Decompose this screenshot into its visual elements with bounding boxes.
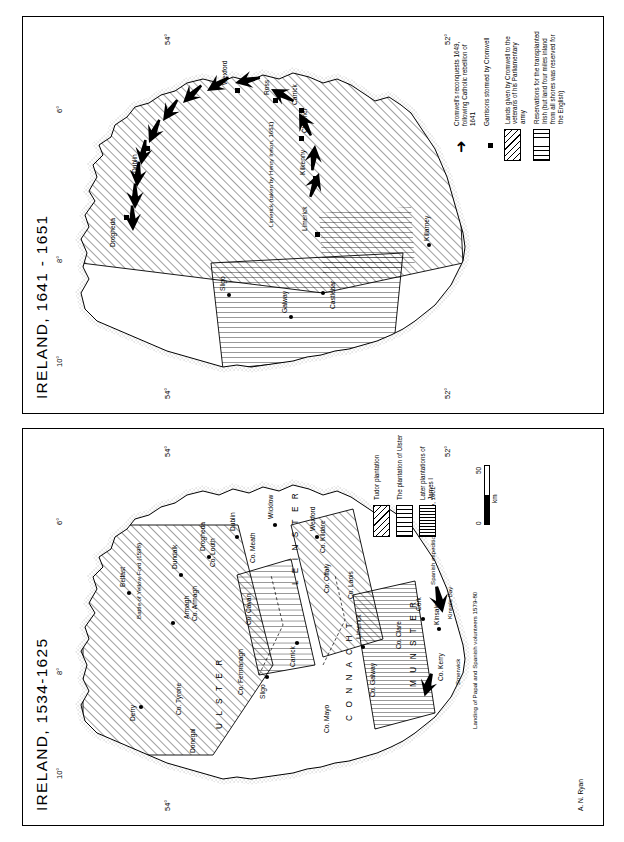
vertical-hatch-icon [396,505,413,537]
county-label-kerry: Co. Kerry [437,653,444,681]
place-label-cork: Cork [415,597,422,611]
legend-label-garrisons-stormed: Garrisons stormed by Cromwell [483,38,491,126]
place-label-limerick-r: Limerick [301,206,308,231]
legend-row-tudor-plantation: Tudor plantation [373,429,390,537]
place-label-armagh-town: Armagh [183,596,190,619]
scale-bar-left: 0 50 km [475,465,490,525]
place-label-castlebar-r: Castlebar [329,281,336,309]
annotation-battle-yellow-ford: Battle of Yellow Ford (1598) [135,555,142,619]
vertical-hatch-icon-right [533,129,550,161]
rotated-map-stage: IRELAND, 1534-1625 [0,0,624,842]
graticule-label-54deg-right-w: 54° [163,388,172,399]
place-label-killarney-r: Killarney [423,216,430,241]
place-label-sligo: Sligo [259,684,266,699]
place-label-ross-r: Ross [263,80,270,95]
scale-bar-graphic [484,465,490,525]
county-label-armagh: Co. Armagh [191,586,198,621]
graticule-label-8deg-left: 8° [55,668,64,675]
legend-row-irish-reservations: Reservations for the transplanted Irish … [533,28,564,161]
graticule-label-10deg-left: 10° [55,768,64,779]
legend-row-cromwell-land-grants: Lands given by Cromwell to the veterans … [504,28,528,161]
county-label-clare: Co. Clare [395,621,402,649]
place-label-carrick: Carrick [289,646,296,667]
legend-label-cromwell-reconquests: Cromwell's reconquests 1649, following C… [453,30,477,126]
place-label-kinsale: Kinsale [433,603,440,625]
place-label-wicklow: Wicklow [267,495,274,519]
graticule-label-52deg-right-w: 52° [443,388,452,399]
legend-label-cromwell-land-grants: Lands given by Cromwell to the veterans … [504,28,528,124]
legend-left: Tudor plantation The plantation of Ulste… [373,429,442,537]
place-label-dundalk: Dundalk [171,545,178,569]
place-label-drogheda: Drogheda [199,522,206,551]
county-label-tyrone: Co. Tyrone [175,683,182,715]
legend-label-plantation-ulster: The plantation of Ulster [396,435,404,500]
scale-min-label: 0 [475,521,482,525]
place-label-wexford: Wexford [309,507,316,531]
annotation-papal-spanish-landing: Landing of Papal and Spanish volunteers … [471,653,478,729]
place-label-carrick-r: Carrick [291,84,298,105]
county-label-cavan: Co. Cavan [245,594,252,625]
province-label-ulster: U L S T E R [215,657,224,729]
place-label-clonmel-r: Clonmel [301,109,308,133]
place-label-dublin: Dublin [229,512,236,531]
map-graphic-left [23,429,603,825]
county-label-laois: Co. Laois [347,571,354,599]
place-label-derry: Derry [129,705,136,721]
legend-label-tudor-plantation: Tudor plantation [373,455,381,500]
place-label-kilkenny-r: Kilkenny [299,150,306,175]
place-label-dublin-r: Dublin [131,154,138,173]
graticule-label-6deg-left: 6° [55,518,64,525]
graticule-label-54deg-left-e: 54° [163,446,172,457]
county-label-donegal: Donegal [189,728,196,753]
place-label-galway-r: Galway [281,291,288,313]
credit-label: A. N. Ryan [577,779,584,811]
map-panel-ireland-1534-1625: IRELAND, 1534-1625 [22,428,604,826]
place-label-kinsale-bay: Kinsale Bay [447,587,454,619]
legend-row-later-plantations: Later plantations of James I [419,429,436,537]
diagonal-hatch-icon-right [504,129,521,161]
place-label-wexford-r: Wexford [221,61,228,85]
place-label-sligo-r: Sligo [219,276,226,291]
legend-row-plantation-ulster: The plantation of Ulster [396,429,413,537]
scale-unit-label: km [491,494,498,503]
county-label-fermanagh: Co. Fermanagh [237,649,244,695]
graticule-label-52deg-left-e: 52° [443,446,452,457]
graticule-label-54deg-right-e: 54° [163,34,172,45]
province-label-connacht: C O N N A C H T [345,621,354,721]
place-label-belfast: Belfast [119,567,126,587]
place-label-drogheda-r: Drogheda [109,218,116,247]
county-label-louth: Co. Louth [209,538,216,567]
graticule-label-54deg-left-w: 54° [163,800,172,811]
legend-label-irish-reservations: Reservations for the transplanted Irish … [533,28,564,124]
map-panel-ireland-1641-1651: IRELAND, 1641 - 1651 [22,16,604,414]
place-label-limerick: Limerick [355,614,362,639]
legend-right: ➜ Cromwell's reconquests 1649, following… [453,28,571,161]
county-label-mayo: Co. Mayo [323,705,330,733]
county-label-kildare: Co. Kildare [319,520,326,553]
diagonal-hatch-icon [373,505,390,537]
figure-page: IRELAND, 1534-1625 [0,0,624,842]
legend-row-garrisons-stormed: Garrisons stormed by Cromwell [483,28,498,161]
dense-vertical-hatch-icon [419,505,436,537]
province-label-leinster: L E I N S T E R [291,491,300,585]
graticule-label-6deg-right: 6° [55,106,64,113]
annotation-limerick-ireton: Limerick (taken by Henry Ireton, 1651) [267,157,274,227]
province-label-munster: M U N S T E R [409,599,418,687]
legend-row-cromwell-reconquests: ➜ Cromwell's reconquests 1649, following… [453,28,477,161]
county-label-meath: Co. Meath [249,533,256,563]
graticule-label-8deg-right: 8° [55,256,64,263]
graticule-label-52deg-right-e: 52° [443,34,452,45]
arrow-icon: ➜ [453,131,468,161]
legend-label-later-plantations: Later plantations of James I [419,429,435,500]
square-marker-icon [483,131,498,161]
place-label-smerwick: Smerwick [455,659,462,685]
county-label-galway: Co. Galway [369,663,376,697]
scale-max-label: 50 [475,467,482,474]
county-label-offaly: Co. Offaly [323,564,330,593]
graticule-label-10deg-right: 10° [55,356,64,367]
